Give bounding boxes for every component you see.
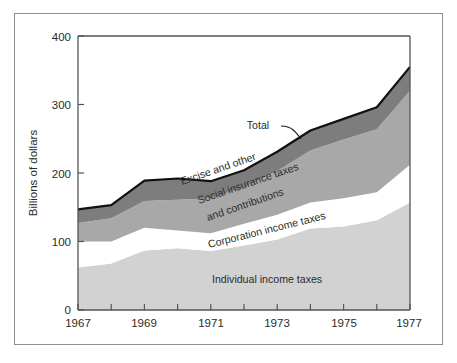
y-tick-label-100: 100 — [52, 236, 71, 248]
x-tick-label-1977: 1977 — [396, 317, 422, 329]
x-tick-label-1973: 1973 — [264, 317, 290, 329]
y-axis-title: Billions of dollars — [27, 130, 39, 217]
x-axis-tick-labels: 1967 1969 1971 1973 1975 1977 — [65, 317, 422, 329]
y-axis-tick-labels: 400 300 200 100 0 — [52, 31, 71, 317]
y-tick-label-400: 400 — [52, 31, 71, 43]
y-tick-label-0: 0 — [65, 304, 71, 316]
x-tick-label-1975: 1975 — [331, 317, 357, 329]
x-tick-label-1967: 1967 — [65, 317, 91, 329]
y-tick-label-300: 300 — [52, 99, 71, 111]
total-leader-line — [281, 126, 301, 139]
annotation-individual-income-taxes: Individual income taxes — [212, 273, 322, 285]
stacked-area-chart: 400 300 200 100 0 Billions of dollars 19… — [0, 0, 457, 363]
y-tick-label-200: 200 — [52, 168, 71, 180]
annotation-total: Total — [247, 119, 269, 131]
x-tick-label-1971: 1971 — [198, 317, 224, 329]
x-tick-label-1969: 1969 — [131, 317, 157, 329]
figure-root: 400 300 200 100 0 Billions of dollars 19… — [0, 0, 457, 363]
